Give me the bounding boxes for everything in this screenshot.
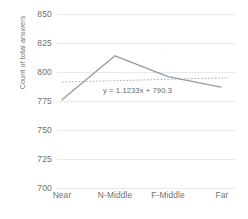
x-tick-label-far: Far [202, 190, 242, 200]
trendline-equation-label: y = 1.1233x + 790.3 [103, 86, 172, 95]
x-tick-label-near: Near [42, 190, 82, 200]
x-tick-label-f-middle: F-Middle [145, 190, 191, 200]
chart-container: Count of total answers 850 825 800 775 7… [0, 0, 248, 219]
x-tick-label-n-middle: N-Middle [92, 190, 138, 200]
plot-area [0, 0, 248, 219]
